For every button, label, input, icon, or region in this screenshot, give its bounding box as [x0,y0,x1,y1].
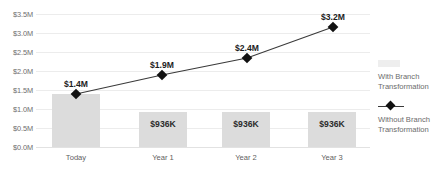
bar-today[interactable] [52,94,100,147]
bar-label-year-3: $936K [308,120,356,129]
y-tick-label: $0.5M [13,125,33,132]
y-tick-label: $1.0M [13,106,33,113]
data-point-year-2 [242,53,253,64]
y-tick-label: $3.0M [13,30,33,37]
legend-label-with-branch-transformation: With Branch Transformation [378,72,447,93]
y-tick-label: $1.5M [13,87,33,94]
legend-label-line-2: Transformation [378,125,447,135]
y-tick-label: $2.0M [13,68,33,75]
plot-area: $936K $936K $936K $1.4M $1.9M $2.4M $3.2… [36,0,370,172]
bar-year-2[interactable] [222,112,270,147]
data-point-year-3 [328,22,339,33]
bar-year-1[interactable] [139,112,187,147]
x-label-year-3: Year 3 [306,154,358,162]
bar-year-3[interactable] [308,112,356,147]
point-label-year-1: $1.9M [136,61,188,70]
y-tick-label: $0.0M [13,144,33,151]
legend-line-diamond-icon [378,102,404,111]
legend-diamond-marker-icon [386,100,396,110]
legend-label-line-1: Without Branch [378,115,447,125]
legend-label-line-1: With Branch [378,72,447,82]
y-axis: $3.5M $3.0M $2.5M $2.0M $1.5M $1.0M $0.5… [0,0,36,172]
y-tick-label: $3.5M [13,11,33,18]
y-tick-label: $2.5M [13,49,33,56]
bar-label-year-1: $936K [139,120,187,129]
chart-legend: With Branch Transformation Without Branc… [378,60,447,144]
point-label-year-2: $2.4M [221,44,273,53]
trend-line [76,27,333,94]
legend-swatch-icon [378,60,400,67]
point-label-year-3: $3.2M [307,13,359,22]
x-label-year-2: Year 2 [220,154,272,162]
point-label-today: $1.4M [50,80,102,89]
legend-label-line-2: Transformation [378,82,447,92]
legend-label-without-branch-transformation: Without Branch Transformation [378,115,447,136]
x-label-today: Today [50,154,102,162]
data-point-markers [71,22,339,100]
legend-entry-with-branch-transformation[interactable]: With Branch Transformation [378,60,447,93]
chart-container: $3.5M $3.0M $2.5M $2.0M $1.5M $1.0M $0.5… [0,0,447,172]
x-label-year-1: Year 1 [137,154,189,162]
legend-entry-without-branch-transformation[interactable]: Without Branch Transformation [378,102,447,136]
data-point-year-1 [157,70,168,81]
bar-label-year-2: $936K [222,120,270,129]
